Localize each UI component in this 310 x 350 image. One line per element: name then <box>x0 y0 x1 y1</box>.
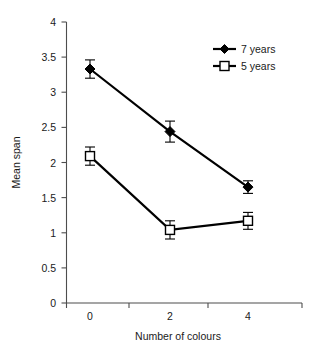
legend-label-5-years: 5 years <box>241 60 275 72</box>
x-tick-label-0: 0 <box>87 310 93 322</box>
legend-marker-open-square-icon <box>220 62 229 71</box>
y-tick-label-1_5: 1.5 <box>41 192 56 204</box>
y-tick-label-2: 2 <box>50 157 56 169</box>
chart-legend: 7 years 5 years <box>213 43 275 72</box>
x-axis-title: Number of colours <box>135 330 221 342</box>
y-tick-label-1: 1 <box>50 227 56 239</box>
series-5-years-marker-x0 <box>86 152 95 161</box>
legend-item-7-years[interactable]: 7 years <box>213 43 275 55</box>
y-axis: 4 3.5 3 2.5 2 1.5 1 0.5 0 Mean span <box>10 16 67 309</box>
x-tick-label-2: 2 <box>167 310 173 322</box>
series-5-years <box>85 147 253 239</box>
chart-figure: 4 3.5 3 2.5 2 1.5 1 0.5 0 Mean span 0 2 … <box>0 0 310 350</box>
y-tick-label-4: 4 <box>50 16 56 28</box>
y-tick-label-0: 0 <box>50 297 56 309</box>
x-axis: 0 2 4 Number of colours <box>67 303 303 342</box>
y-tick-label-3: 3 <box>50 86 56 98</box>
series-5-years-line <box>90 156 248 230</box>
series-5-years-marker-x4 <box>244 216 253 225</box>
y-tick-label-3_5: 3.5 <box>41 51 56 63</box>
legend-label-7-years: 7 years <box>241 43 275 55</box>
legend-item-5-years[interactable]: 5 years <box>213 60 275 72</box>
y-axis-title: Mean span <box>10 136 22 188</box>
series-5-years-marker-x2 <box>166 225 175 234</box>
x-tick-label-4: 4 <box>245 310 251 322</box>
y-tick-label-0_5: 0.5 <box>41 262 56 274</box>
legend-marker-filled-diamond-icon <box>220 45 229 54</box>
y-tick-label-2_5: 2.5 <box>41 121 56 133</box>
line-chart: 4 3.5 3 2.5 2 1.5 1 0.5 0 Mean span 0 2 … <box>0 0 310 350</box>
